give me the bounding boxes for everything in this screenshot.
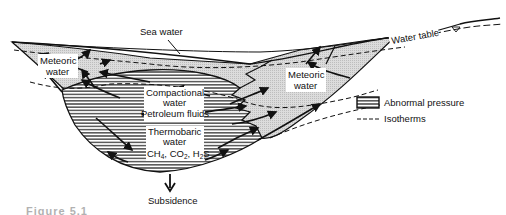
label-water-table-group: Water table	[388, 27, 440, 48]
label-meteoric-right-group: Meteoric water	[286, 68, 326, 92]
label-meteoric-left-2: water	[45, 66, 69, 77]
label-meteoric-right-1: Meteoric	[288, 69, 325, 80]
label-thermobaric-2: water	[162, 136, 186, 147]
legend-label-abnormal-pressure: Abnormal pressure	[384, 97, 464, 108]
label-petroleum: Petroleum fluids	[141, 108, 209, 119]
subsidence-arrow-icon	[165, 174, 175, 191]
label-meteoric-right-2: water	[293, 80, 317, 91]
label-subsidence: Subsidence	[148, 195, 198, 206]
sea-water-leader	[168, 40, 180, 54]
label-thermobaric-group: Thermobaric water CH4, CO2, H2S	[146, 126, 210, 161]
legend: Abnormal pressure Isotherms	[357, 97, 464, 124]
label-meteoric-left-group: Meteoric water	[38, 54, 78, 78]
label-compactional-group: Compactional water Petroleum fluids	[141, 87, 209, 122]
label-meteoric-left-1: Meteoric	[40, 55, 77, 66]
label-water-table: Water table	[390, 27, 439, 46]
label-sea-water: Sea water	[140, 26, 183, 37]
label-compactional-2: water	[162, 97, 186, 108]
hatch-swatch-icon	[357, 97, 379, 108]
legend-label-isotherms: Isotherms	[384, 113, 426, 124]
legend-item-abnormal-pressure: Abnormal pressure	[357, 97, 464, 108]
basin-cross-section-diagram: Sea water Water table Meteoric water Met…	[0, 0, 506, 215]
legend-item-isotherms: Isotherms	[357, 113, 426, 124]
figure-caption-partial: Figure 5.1	[26, 205, 88, 215]
